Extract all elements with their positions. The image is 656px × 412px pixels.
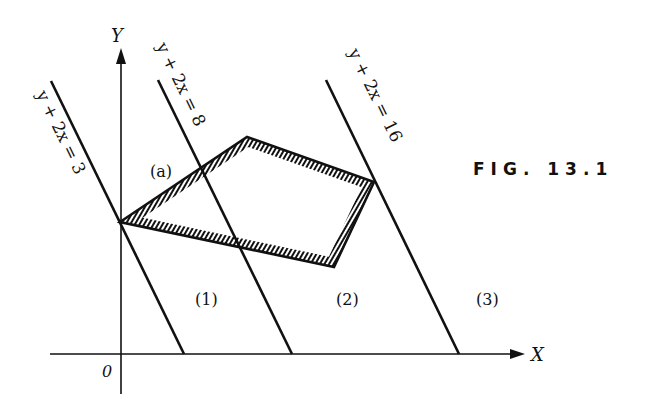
y-axis-label: Y — [111, 25, 125, 46]
x-axis-label: X — [529, 344, 545, 365]
y-axis-arrow-icon — [116, 48, 126, 64]
figure-caption: FIG. 13.1 — [473, 159, 613, 179]
diagram-canvas: y + 2x = 3 y + 2x = 8 y + 2x = 16 Y X 0 … — [0, 0, 656, 412]
region-label-1: (1) — [195, 290, 218, 309]
line-label-16: y + 2x = 16 — [344, 44, 407, 145]
region-label-3: (3) — [476, 290, 499, 309]
polygon-label: (a) — [150, 162, 172, 181]
region-label-2: (2) — [336, 290, 359, 309]
x-axis-arrow-icon — [510, 349, 525, 359]
line-y-plus-2x-eq-3 — [51, 81, 184, 354]
line-y-plus-2x-eq-8 — [158, 80, 292, 354]
origin-label: 0 — [102, 362, 112, 381]
